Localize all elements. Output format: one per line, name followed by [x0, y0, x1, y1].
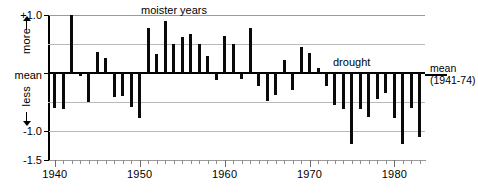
bar-1957 [198, 44, 201, 73]
bar-1963 [249, 28, 252, 73]
bar-1953 [164, 21, 167, 73]
x-tick-1957 [199, 160, 200, 164]
bar-1959 [215, 73, 218, 80]
x-tick-1943 [80, 160, 81, 164]
x-tick-label-1940: 1940 [42, 168, 67, 180]
bar-1964 [257, 73, 260, 86]
x-tick-1952 [157, 160, 158, 164]
bar-1983 [418, 73, 421, 137]
bar-1958 [206, 56, 209, 73]
x-tick-1962 [242, 160, 243, 164]
bar-1965 [266, 73, 269, 101]
bar-1973 [333, 73, 336, 105]
bar-1951 [147, 28, 150, 73]
bar-1960 [223, 36, 226, 73]
y-tick-label-neg1: -1.0 [0, 125, 42, 137]
bar-1942 [70, 15, 73, 73]
bar-1949 [130, 73, 133, 107]
bar-1961 [232, 44, 235, 73]
x-tick-1944 [89, 160, 90, 164]
y-tick-label-neg15: -1.5 [0, 154, 42, 166]
bar-1962 [240, 73, 243, 79]
x-tick-1978 [377, 160, 378, 164]
x-tick-1950 [140, 160, 141, 167]
x-tick-1956 [191, 160, 192, 164]
bar-1982 [410, 73, 413, 108]
x-tick-1968 [293, 160, 294, 164]
bar-1967 [283, 60, 286, 73]
x-tick-1982 [411, 160, 412, 164]
gridline-y-0.5 [48, 44, 425, 45]
x-tick-1977 [369, 160, 370, 164]
bar-1976 [359, 73, 362, 109]
x-tick-1979 [386, 160, 387, 164]
x-tick-1965 [267, 160, 268, 164]
bar-1940 [53, 73, 56, 108]
bar-1981 [401, 73, 404, 144]
bar-1979 [384, 73, 387, 93]
bar-1946 [104, 58, 107, 73]
bar-1947 [113, 73, 116, 97]
x-tick-1946 [106, 160, 107, 164]
x-tick-1967 [284, 160, 285, 164]
bar-1954 [172, 44, 175, 73]
x-tick-1966 [276, 160, 277, 164]
annotation-moister-years: moister years [141, 4, 207, 16]
x-tick-label-1980: 1980 [382, 168, 407, 180]
bar-1955 [181, 37, 184, 73]
bar-1968 [291, 73, 294, 90]
gridline-y--1 [48, 131, 425, 132]
x-tick-1961 [233, 160, 234, 164]
bar-1944 [87, 73, 90, 102]
x-tick-1958 [208, 160, 209, 164]
x-tick-1945 [97, 160, 98, 164]
x-tick-label-1960: 1960 [212, 168, 237, 180]
bar-1978 [376, 73, 379, 99]
x-tick-1963 [250, 160, 251, 164]
y-axis-more-label: more [20, 28, 32, 54]
annotation-mean-line1: mean [430, 62, 476, 74]
annotation-mean-period: mean (1941-74) [430, 62, 476, 86]
y-tick-label-pos1: +1.0 [0, 9, 42, 21]
bar-1956 [189, 34, 192, 73]
x-tick-1974 [343, 160, 344, 164]
y-tick-label-mean: mean [0, 69, 42, 81]
gridline-y-1 [48, 15, 425, 16]
x-tick-1951 [148, 160, 149, 164]
bar-1943 [79, 73, 82, 76]
bar-1966 [274, 73, 277, 95]
x-tick-1941 [63, 160, 64, 164]
x-tick-1948 [123, 160, 124, 164]
x-tick-1976 [360, 160, 361, 164]
annotation-drought: drought [333, 56, 370, 68]
x-tick-label-1950: 1950 [127, 168, 152, 180]
x-tick-1947 [114, 160, 115, 164]
x-tick-1981 [403, 160, 404, 164]
x-tick-1942 [72, 160, 73, 164]
x-tick-1980 [394, 160, 395, 167]
bar-1975 [350, 73, 353, 144]
x-tick-1975 [352, 160, 353, 164]
y-axis-less-label: less [20, 86, 32, 106]
bar-1950 [138, 73, 141, 118]
y-tick--1 [44, 131, 49, 132]
bar-1969 [300, 47, 303, 73]
bar-1948 [121, 73, 124, 96]
x-tick-1983 [420, 160, 421, 164]
x-tick-1970 [310, 160, 311, 167]
bar-1980 [393, 73, 396, 118]
x-tick-1971 [318, 160, 319, 164]
x-tick-1954 [174, 160, 175, 164]
x-tick-1960 [225, 160, 226, 167]
x-tick-1973 [335, 160, 336, 164]
bar-1952 [155, 54, 158, 73]
bar-1977 [367, 73, 370, 117]
x-tick-1964 [259, 160, 260, 164]
x-tick-1959 [216, 160, 217, 164]
y-tick-1 [44, 15, 49, 16]
bar-1974 [342, 73, 345, 109]
plot-area [48, 15, 425, 160]
bar-1972 [325, 73, 328, 86]
x-tick-1949 [131, 160, 132, 164]
x-tick-1940 [55, 160, 56, 167]
